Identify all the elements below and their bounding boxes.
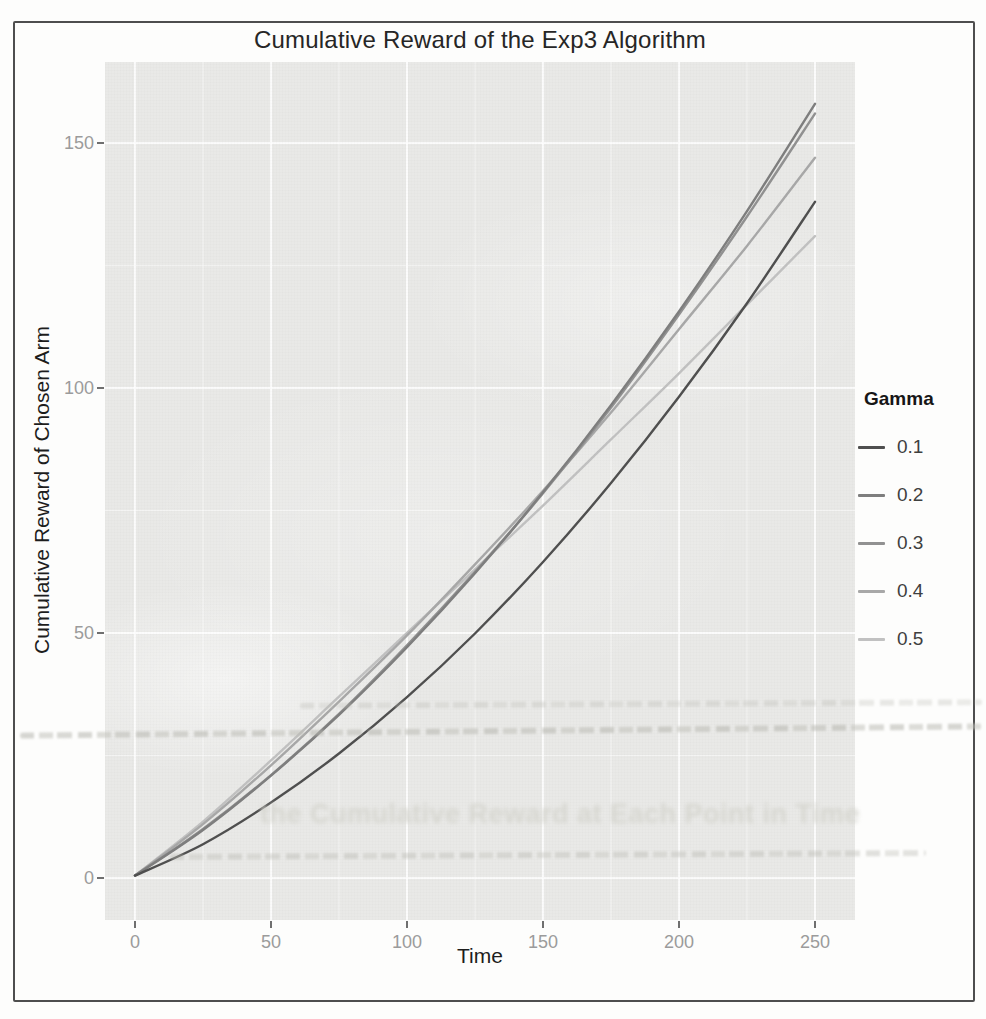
legend-label: 0.5 [897, 628, 923, 650]
legend-entry: 0.5 [858, 628, 980, 650]
y-tick-mark [97, 632, 104, 634]
legend-entry: 0.3 [858, 532, 980, 554]
x-tick-mark [270, 921, 272, 928]
legend-entry: 0.2 [858, 484, 980, 506]
series-line-0.1 [135, 202, 815, 876]
y-axis-title: Cumulative Reward of Chosen Arm [30, 326, 54, 654]
legend-title: Gamma [858, 388, 980, 410]
chart-panel [105, 62, 855, 920]
legend-label: 0.3 [897, 532, 923, 554]
x-tick-mark [406, 921, 408, 928]
legend-entry: 0.4 [858, 580, 980, 602]
y-tick-mark [97, 877, 104, 879]
legend-key-line [858, 542, 885, 545]
series-line-0.3 [135, 114, 815, 876]
series-line-0.4 [135, 158, 815, 876]
plot-svg [105, 62, 855, 920]
chart-title: Cumulative Reward of the Exp3 Algorithm [105, 26, 855, 54]
legend: Gamma 0.10.20.30.40.5 [858, 388, 980, 650]
x-tick-mark [814, 921, 816, 928]
legend-label: 0.4 [897, 580, 923, 602]
scanned-page: Cumulative Reward of the Exp3 Algorithm … [0, 0, 986, 1019]
x-tick-mark [542, 921, 544, 928]
y-tick-label: 0 [28, 868, 94, 889]
legend-key-line [858, 494, 885, 497]
series-line-0.2 [135, 104, 815, 876]
legend-key-line [858, 446, 885, 449]
legend-label: 0.1 [897, 436, 923, 458]
legend-label: 0.2 [897, 484, 923, 506]
x-tick-mark [678, 921, 680, 928]
bleedthrough-ghost-heading: the Cumulative Reward at Each Point in T… [140, 799, 980, 830]
y-tick-mark [97, 142, 104, 144]
x-axis-title: Time [105, 944, 855, 968]
legend-key-line [858, 590, 885, 593]
y-tick-mark [97, 387, 104, 389]
legend-entries: 0.10.20.30.40.5 [858, 436, 980, 650]
series-line-0.5 [135, 236, 815, 875]
legend-entry: 0.1 [858, 436, 980, 458]
y-tick-label: 150 [28, 133, 94, 154]
x-tick-mark [134, 921, 136, 928]
legend-key-line [858, 638, 885, 641]
